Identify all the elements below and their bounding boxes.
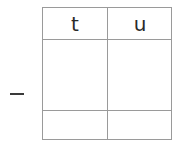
cell-units-row-1[interactable] — [108, 40, 172, 110]
cell-tens-row-1[interactable] — [43, 40, 107, 110]
column-header-tens: t — [43, 8, 107, 39]
minus-sign — [10, 93, 24, 95]
column-header-units: u — [108, 8, 172, 39]
place-value-grid: t u — [42, 7, 172, 140]
cell-tens-answer[interactable] — [43, 111, 107, 139]
cell-units-answer[interactable] — [108, 111, 172, 139]
